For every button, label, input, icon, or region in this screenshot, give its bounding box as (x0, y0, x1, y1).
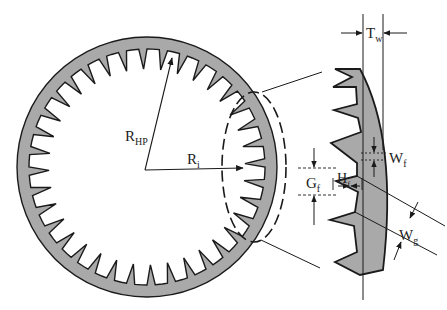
gear-body (17, 37, 277, 297)
r-i-sub: i (197, 159, 200, 170)
gf-dimension: Gf (298, 148, 336, 225)
r-i-line (145, 168, 243, 170)
ring-gear (17, 37, 277, 297)
svg-text:RHP: RHP (125, 128, 148, 147)
svg-text:Tw: Tw (366, 25, 383, 44)
wf-sub: f (403, 158, 407, 169)
r-i-label: R (187, 151, 197, 167)
wg-sub: g (413, 235, 418, 246)
svg-text:Wf: Wf (389, 150, 407, 169)
svg-text:Wg: Wg (399, 227, 418, 246)
wg-label: W (399, 227, 414, 243)
r-hp-line (145, 58, 172, 170)
wg-arrow-bottom (394, 242, 401, 260)
tw-sub: w (375, 33, 383, 44)
hf-sub: f (347, 179, 350, 189)
wg-dimension: Wg (394, 202, 418, 260)
gf-sub: f (317, 183, 321, 194)
r-hp-label: R (125, 128, 135, 144)
leader-line-bottom (261, 240, 320, 268)
svg-text:Ri: Ri (187, 151, 200, 170)
wf-label: W (389, 150, 404, 166)
r-hp-sub: HP (135, 136, 148, 147)
leader-line-top (262, 72, 322, 92)
gear-diagram: Tw Wf Gf Hf Wg RHP Ri (0, 0, 447, 310)
gf-label: G (306, 175, 317, 191)
svg-text:Gf: Gf (306, 175, 321, 194)
hf-label: H (337, 171, 347, 186)
magnified-tooth-section (330, 69, 445, 275)
tw-label: T (366, 25, 375, 41)
